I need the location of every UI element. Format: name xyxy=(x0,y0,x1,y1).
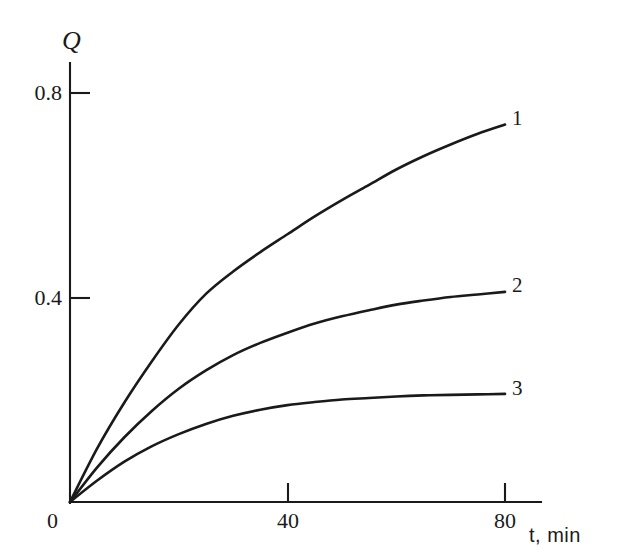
chart-container: Q 0.8 0.4 0 40 80 t, min 1 2 3 xyxy=(0,0,627,558)
axes-group xyxy=(70,63,541,503)
series-label-2: 2 xyxy=(512,275,523,296)
series-curve-1 xyxy=(70,125,505,502)
series-label-3: 3 xyxy=(512,378,523,399)
y-tick-label-0.8: 0.8 xyxy=(22,82,62,104)
x-tick-label-40: 40 xyxy=(268,510,308,532)
series-group xyxy=(70,125,505,502)
series-label-1: 1 xyxy=(512,108,523,129)
y-tick-label-0.4: 0.4 xyxy=(22,287,62,309)
x-tick-label-80: 80 xyxy=(485,510,525,532)
y-axis-title: Q xyxy=(62,28,81,54)
origin-label: 0 xyxy=(47,510,58,532)
series-curve-2 xyxy=(70,292,505,502)
chart-plot-area xyxy=(0,0,627,558)
x-axis-title: t, min xyxy=(529,525,581,545)
